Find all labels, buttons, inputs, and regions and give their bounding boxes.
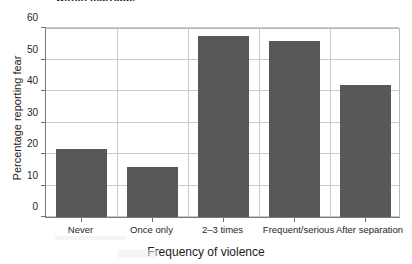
y-tick-10 bbox=[41, 185, 46, 186]
x-category-label-never: Never bbox=[45, 224, 116, 235]
x-tick-2-3-times bbox=[223, 217, 224, 222]
y-tick-label-30: 30 bbox=[27, 108, 38, 118]
x-tick-once-only bbox=[152, 217, 153, 222]
scan-artifact bbox=[55, 236, 125, 240]
bar-frequent-serious bbox=[269, 41, 320, 217]
bar-never bbox=[56, 149, 107, 217]
y-axis-title: Percentage reporting fear bbox=[11, 33, 23, 203]
plot-area: 0 10 20 30 40 50 60 bbox=[45, 28, 400, 218]
x-category-label-once-only: Once only bbox=[116, 224, 187, 235]
x-tick-never bbox=[81, 217, 82, 222]
gridline-x-2 bbox=[188, 29, 189, 217]
gridline-x-3 bbox=[259, 29, 260, 217]
gridline-x-4 bbox=[330, 29, 331, 217]
y-tick-20 bbox=[41, 153, 46, 154]
bar-2-3-times bbox=[198, 36, 249, 217]
y-tick-label-60: 60 bbox=[27, 13, 38, 23]
y-tick-label-0: 0 bbox=[32, 202, 38, 212]
y-tick-40 bbox=[41, 90, 46, 91]
y-tick-label-10: 10 bbox=[27, 171, 38, 181]
y-tick-30 bbox=[41, 122, 46, 123]
x-tick-frequent-serious bbox=[294, 217, 295, 222]
gridline-x-1 bbox=[117, 29, 118, 217]
bar-chart-figure: within marriage Percentage reporting fea… bbox=[0, 0, 412, 264]
y-tick-60 bbox=[41, 27, 46, 28]
x-axis-title: Frequency of violence bbox=[0, 245, 412, 259]
x-category-label-after-separation: After separation bbox=[323, 224, 412, 235]
bar-after-separation bbox=[340, 85, 391, 217]
y-tick-label-20: 20 bbox=[27, 139, 38, 149]
y-tick-label-40: 40 bbox=[27, 76, 38, 86]
y-tick-label-50: 50 bbox=[27, 45, 38, 55]
y-tick-0 bbox=[41, 216, 46, 217]
bar-once-only bbox=[127, 167, 178, 217]
x-tick-after-separation bbox=[365, 217, 366, 222]
y-tick-50 bbox=[41, 59, 46, 60]
gridline-y-60 bbox=[46, 27, 399, 28]
x-category-label-2-3-times: 2–3 times bbox=[187, 224, 258, 235]
chart-title: within marriage bbox=[56, 0, 135, 1]
